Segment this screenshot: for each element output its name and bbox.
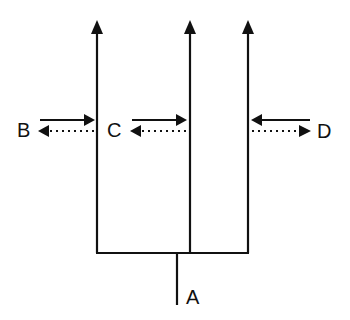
label-D: D [317, 120, 331, 142]
arrow-left-icon [38, 125, 49, 137]
arrow-up-icon [91, 20, 103, 34]
arrow-up-icon [242, 20, 254, 34]
arrow-left-icon [130, 125, 141, 137]
arrow-left-icon [251, 114, 262, 126]
branch-left [91, 20, 103, 253]
label-A: A [186, 286, 200, 308]
flow-C [130, 114, 187, 137]
flow-D [251, 114, 311, 137]
label-B: B [17, 119, 30, 141]
branch-middle [184, 20, 196, 253]
arrow-up-icon [184, 20, 196, 34]
label-C: C [107, 119, 121, 141]
arrow-right-icon [299, 125, 311, 137]
branching-flow-diagram: B C D A [0, 0, 350, 320]
flow-B [38, 114, 95, 137]
arrow-right-icon [176, 114, 187, 126]
arrow-right-icon [84, 114, 95, 126]
branch-right [242, 20, 254, 253]
